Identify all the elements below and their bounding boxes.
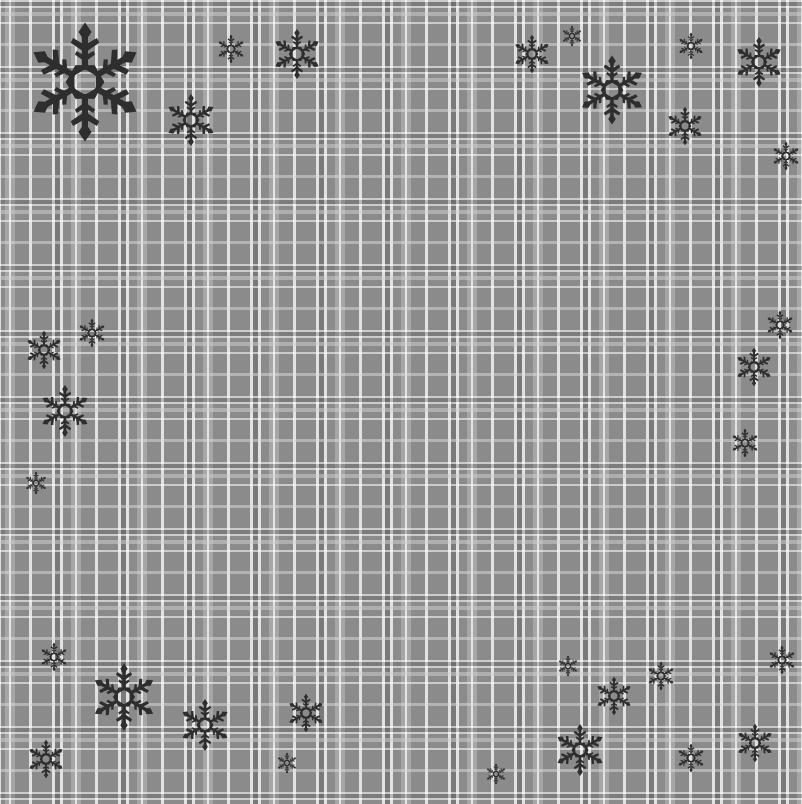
snowflake-icon — [576, 54, 648, 126]
snowflake-icon — [164, 93, 218, 147]
snowflake-icon — [771, 141, 801, 171]
snowflake-icon — [561, 25, 583, 47]
snowflake-icon — [733, 36, 785, 88]
snowflake-icon — [765, 310, 795, 340]
snowflake-icon — [553, 723, 607, 777]
snowflake-icon — [23, 20, 147, 144]
snowflake-icon — [276, 752, 298, 774]
snowflake-icon — [735, 723, 775, 763]
snowflake-icon — [512, 34, 552, 74]
snowflake-icon — [676, 743, 706, 773]
snowflake-icon — [646, 661, 676, 691]
snowflake-icon — [734, 347, 774, 387]
snowflake-icon — [89, 662, 159, 732]
snowflake-icon — [39, 642, 69, 672]
snowflake-icon — [665, 106, 705, 146]
snowflake-icon — [677, 32, 705, 60]
snowflake-icon — [178, 698, 232, 752]
snowflake-icon — [767, 645, 797, 675]
snowflake-icon — [77, 318, 107, 348]
snowflake-icon — [24, 330, 64, 370]
snowflake-icon — [26, 739, 66, 779]
plaid-background — [0, 0, 802, 804]
snowflake-icon — [485, 763, 507, 785]
snowflake-icon — [24, 471, 48, 495]
snowflake-icon — [38, 384, 92, 438]
snowflake-icon — [730, 428, 760, 458]
snowflake-icon — [216, 34, 246, 64]
snowflake-icon — [557, 655, 579, 677]
snowflake-icon — [594, 676, 634, 716]
snowflake-icon — [286, 693, 326, 733]
snowflake-icon — [271, 28, 323, 80]
